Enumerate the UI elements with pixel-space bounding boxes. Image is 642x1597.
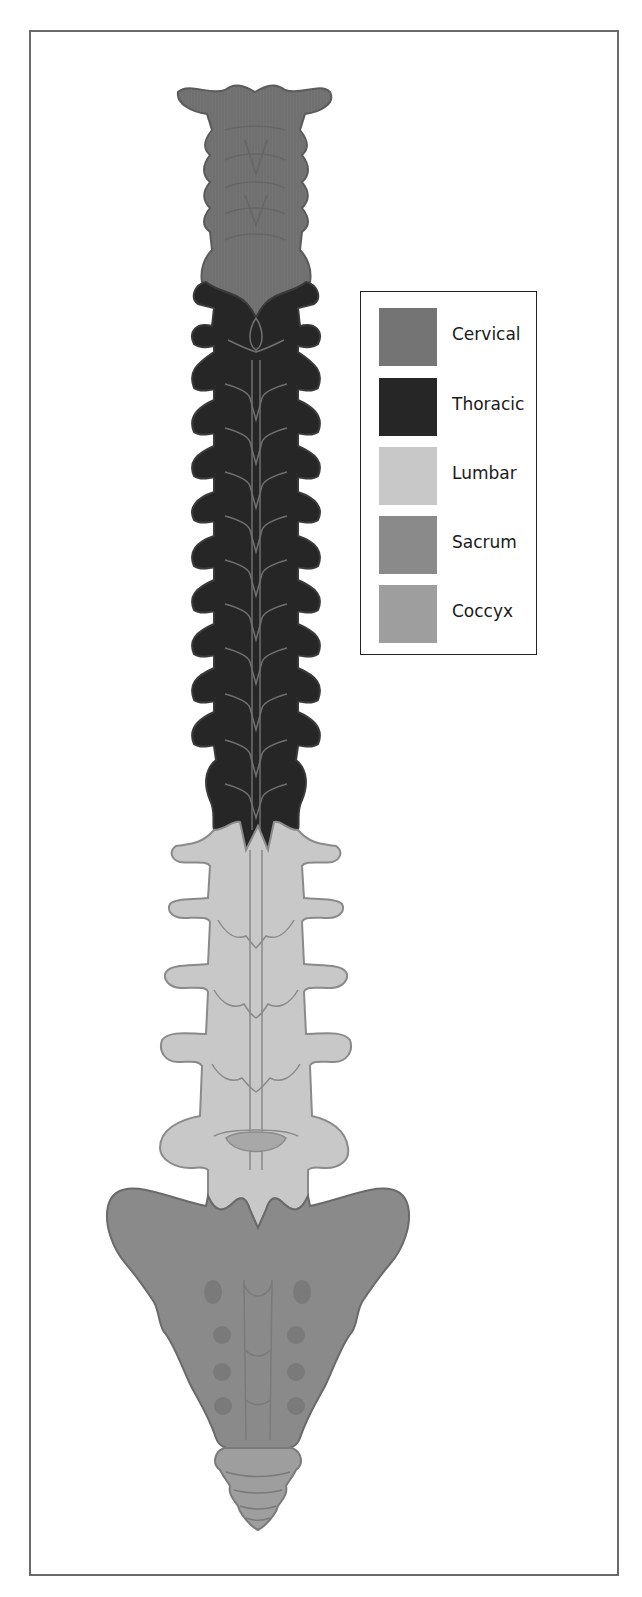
coccyx-region	[215, 1448, 301, 1530]
thoracic-swatch	[379, 378, 437, 436]
sacrum-region	[107, 1189, 409, 1450]
spine-illustration	[0, 0, 642, 1597]
legend-item-sacrum: Sacrum	[379, 516, 529, 574]
cervical-swatch	[379, 308, 437, 366]
legend-label: Lumbar	[452, 463, 517, 483]
legend-item-coccyx: Coccyx	[379, 585, 529, 643]
legend-label: Cervical	[452, 324, 521, 344]
legend: Cervical Thoracic Lumbar Sacrum Coccyx	[360, 291, 537, 655]
thoracic-region	[192, 282, 320, 850]
coccyx-swatch	[379, 585, 437, 643]
legend-item-cervical: Cervical	[379, 308, 529, 366]
legend-item-lumbar: Lumbar	[379, 447, 529, 505]
legend-label: Sacrum	[452, 532, 517, 552]
sacrum-swatch	[379, 516, 437, 574]
legend-label: Coccyx	[452, 601, 513, 621]
lumbar-swatch	[379, 447, 437, 505]
legend-item-thoracic: Thoracic	[379, 378, 529, 436]
lumbar-region	[160, 822, 351, 1228]
legend-label: Thoracic	[452, 394, 524, 414]
